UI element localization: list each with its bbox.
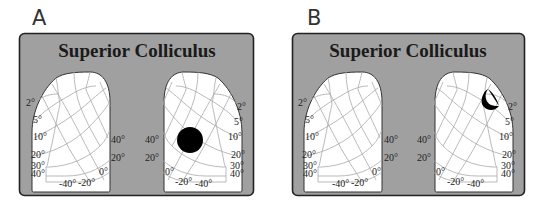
ecc-label-40: 40°	[230, 168, 244, 179]
elev-label-neg40: -40°	[195, 178, 212, 189]
elev-label-0: 0°	[372, 166, 381, 177]
ecc-label-5: 5°	[234, 116, 243, 127]
ecc-label-10: 10°	[305, 131, 319, 142]
elev-label-20: 20°	[384, 152, 398, 163]
panel-b-title: Superior Colliculus	[329, 40, 486, 61]
ecc-label-2: 2°	[508, 101, 517, 112]
elev-label-40: 40°	[145, 134, 159, 145]
elev-label-40: 40°	[417, 134, 431, 145]
elev-label-40: 40°	[111, 134, 125, 145]
elev-label-20: 20°	[145, 152, 159, 163]
ecc-label-40: 40°	[501, 168, 515, 179]
ecc-label-5: 5°	[505, 116, 514, 127]
ecc-label-10: 10°	[33, 131, 47, 142]
elev-label-20: 20°	[417, 152, 431, 163]
elev-label-neg40: -40°	[332, 178, 349, 189]
elev-label-neg20: -20°	[175, 176, 192, 187]
ecc-label-5: 5°	[305, 114, 314, 125]
elev-label-neg20: -20°	[78, 177, 95, 188]
figure-canvas: Superior Colliculus 2° 5° 10° 20° 30° 40…	[0, 0, 541, 209]
ecc-label-20: 20°	[302, 149, 316, 160]
ecc-label-20: 20°	[31, 149, 45, 160]
elev-label-neg20: -20°	[447, 176, 464, 187]
elev-label-0: 0°	[99, 166, 108, 177]
ecc-label-40: 40°	[303, 168, 317, 179]
ecc-label-2: 2°	[26, 97, 35, 108]
elev-label-20: 20°	[111, 152, 125, 163]
elev-label-0: 0°	[165, 166, 174, 177]
panel-b: Superior Colliculus 2° 5° 10° 20° 30° 40…	[293, 34, 525, 196]
panel-a: Superior Colliculus 2° 5° 10° 20° 30° 40…	[20, 34, 254, 196]
ecc-label-20: 20°	[502, 149, 516, 160]
ecc-label-2: 2°	[298, 97, 307, 108]
elev-label-0: 0°	[436, 166, 445, 177]
elev-label-neg20: -20°	[351, 177, 368, 188]
activity-marker-circle	[177, 127, 203, 153]
ecc-label-5: 5°	[33, 114, 42, 125]
panel-a-title: Superior Colliculus	[58, 40, 215, 61]
elev-label-40: 40°	[384, 134, 398, 145]
ecc-label-10: 10°	[228, 131, 242, 142]
elev-label-neg40: -40°	[467, 178, 484, 189]
ecc-label-40: 40°	[31, 168, 45, 179]
ecc-label-2: 2°	[237, 101, 246, 112]
elev-label-neg40: -40°	[59, 178, 76, 189]
ecc-label-20: 20°	[231, 149, 245, 160]
ecc-label-10: 10°	[499, 131, 513, 142]
